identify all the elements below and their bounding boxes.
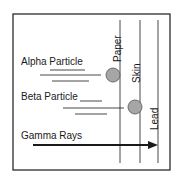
alpha-particle-circle [106, 68, 120, 82]
lead-label: Lead [149, 108, 160, 130]
gamma-ray-arrowhead-icon [148, 141, 158, 149]
paper-label: Paper [112, 35, 123, 62]
skin-label: Skin [131, 64, 142, 83]
radiation-penetration-diagram: Paper Skin Lead Alpha Particle Beta Part… [0, 0, 179, 177]
gamma-rays-label: Gamma Rays [21, 130, 82, 141]
alpha-particle-label: Alpha Particle [21, 56, 83, 67]
beta-particle-circle [128, 100, 142, 114]
beta-particle-label: Beta Particle [21, 91, 78, 102]
